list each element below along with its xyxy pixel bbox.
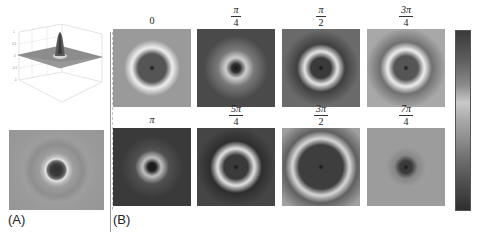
phase-denominator: 2 [319, 116, 324, 127]
phase-label: 0 [150, 15, 155, 26]
phase-title: 7π4 [367, 104, 445, 127]
svg-text:0: 0 [14, 54, 16, 58]
phase-intensity-map [197, 128, 275, 206]
phase-title: π [113, 115, 191, 125]
phase-intensity-map [197, 29, 275, 107]
phase-numerator: 3π [314, 104, 328, 116]
phase-denominator: 4 [404, 17, 409, 28]
phase-intensity-map [113, 29, 191, 107]
svg-text:1: 1 [13, 30, 15, 34]
surface-plot-3d: 1 0.5 0 -0.5 -1 [12, 24, 104, 110]
surface-plot-graphic: 1 0.5 0 -0.5 -1 [12, 24, 104, 110]
phase-title: π4 [197, 5, 275, 28]
svg-text:0.5: 0.5 [12, 42, 17, 46]
phase-denominator: 2 [319, 17, 324, 28]
svg-text:-0.5: -0.5 [12, 66, 18, 70]
phase-numerator: 3π [399, 5, 413, 17]
phase-numerator: 5π [229, 104, 243, 116]
phase-numerator: 7π [399, 104, 413, 116]
phase-intensity-map [282, 128, 360, 206]
phase-denominator: 4 [234, 17, 239, 28]
phase-intensity-map [113, 128, 191, 206]
phase-intensity-map [367, 29, 445, 107]
phase-title: 3π2 [282, 104, 360, 127]
colorbar [455, 30, 471, 211]
phase-numerator: π [231, 5, 240, 17]
phase-label: π [149, 114, 154, 125]
phase-denominator: 4 [404, 116, 409, 127]
phase-title: 5π4 [197, 104, 275, 127]
phase-title: 3π4 [367, 5, 445, 28]
phase-title: 0 [113, 16, 191, 26]
phase-intensity-map [282, 29, 360, 107]
phase-title: π2 [282, 5, 360, 28]
phase-intensity-map [367, 128, 445, 206]
phase-denominator: 4 [234, 116, 239, 127]
phase-numerator: π [316, 5, 325, 17]
panel-b-label: (B) [113, 212, 130, 227]
svg-text:-1: -1 [14, 78, 17, 82]
panel-divider [110, 32, 111, 232]
intensity-map-a [9, 130, 104, 210]
panel-a-label: (A) [8, 212, 25, 227]
